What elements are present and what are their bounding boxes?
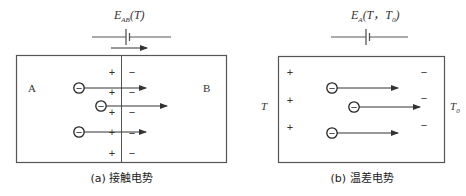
panel-a-emf-label: EAB(T) <box>113 8 145 24</box>
svg-text:−: − <box>329 82 335 94</box>
minus-sign: − <box>421 92 427 104</box>
minus-sign: − <box>129 66 135 78</box>
minus-sign: − <box>421 119 427 131</box>
battery-symbol-icon <box>331 29 408 45</box>
minus-sign: − <box>129 147 135 159</box>
panel-a-caption: (a) 接触电势 <box>91 171 154 185</box>
electron-1: − <box>327 82 398 94</box>
plus-sign: + <box>109 66 115 78</box>
svg-text:−: − <box>329 127 335 139</box>
minus-sign: − <box>129 127 135 139</box>
positive-charges: + + + <box>287 66 293 133</box>
svg-text:−: − <box>98 100 104 112</box>
panel-b-emf-label: EA(T，T0) <box>350 8 399 24</box>
thermocouple-emf-diagram: EAB(T) A B + + + + + − − − − <box>0 0 466 196</box>
panel-b-conductor-box <box>279 57 445 163</box>
plus-sign: + <box>287 94 293 106</box>
plus-sign: + <box>109 147 115 159</box>
plus-sign: + <box>287 121 293 133</box>
panel-a-contact-emf: EAB(T) A B + + + + + − − − − <box>17 8 227 185</box>
svg-text:−: − <box>76 82 82 94</box>
svg-text:−: − <box>351 101 357 113</box>
panel-b-caption: (b) 温差电势 <box>330 171 393 185</box>
minus-sign: − <box>129 106 135 118</box>
minus-sign: − <box>421 66 427 78</box>
electron-2: − <box>349 101 420 113</box>
negative-charges: − − − <box>421 66 427 131</box>
region-a-label: A <box>28 82 36 94</box>
region-b-label: B <box>203 82 210 94</box>
cold-end-temperature-label: T0 <box>450 100 460 115</box>
svg-text:−: − <box>76 126 82 138</box>
plus-sign: + <box>287 66 293 78</box>
negative-charges: − − − − − <box>129 66 135 159</box>
plus-sign: + <box>109 106 115 118</box>
panel-b-thermo-emf: EA(T，T0) T T0 + + + − − − − <box>261 8 460 185</box>
positive-charges: + + + + + <box>109 66 115 159</box>
hot-end-temperature-label: T <box>261 100 268 112</box>
electron-3: − <box>327 127 398 139</box>
battery-symbol-icon <box>92 29 171 45</box>
